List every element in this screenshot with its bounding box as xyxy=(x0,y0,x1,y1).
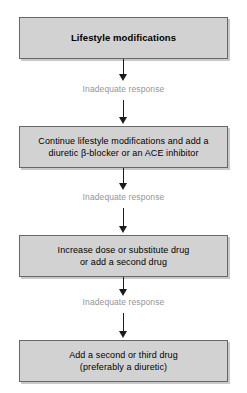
flow-step-line: diuretic β-blocker or an ACE inhibitor xyxy=(24,147,223,160)
arrow-head xyxy=(119,226,127,233)
flow-step-add-second-or-third-drug: Add a second or third drug (preferably a… xyxy=(19,340,228,382)
arrow-head xyxy=(119,289,127,296)
flow-step-add-second-or-third-drug-text: Add a second or third drug (preferably a… xyxy=(20,349,227,374)
arrow-head xyxy=(119,117,127,124)
arrow-head xyxy=(119,331,127,338)
arrow-down-icon xyxy=(119,168,128,192)
arrow-shaft xyxy=(123,208,124,228)
flow-step-increase-dose-or-substitute-text: Increase dose or substitute drug or add … xyxy=(20,244,227,269)
arrow-down-icon xyxy=(119,313,128,340)
arrow-head xyxy=(119,74,127,81)
flow-step-line: Lifestyle modifications xyxy=(24,32,223,45)
connector-label-inadequate-response-2: Inadequate response xyxy=(0,192,247,202)
connector-label-inadequate-response-1: Inadequate response xyxy=(0,84,247,94)
arrow-shaft xyxy=(123,313,124,333)
arrow-down-icon xyxy=(119,277,128,298)
flow-step-line: or add a second drug xyxy=(24,256,223,269)
flow-step-line: (preferably a diuretic) xyxy=(24,361,223,374)
connector-label-inadequate-response-3: Inadequate response xyxy=(0,297,247,307)
arrow-head xyxy=(119,183,127,190)
arrow-down-icon xyxy=(119,208,128,235)
flow-step-lifestyle-modifications-text: Lifestyle modifications xyxy=(20,32,227,45)
flowchart-diagram: Lifestyle modifications Inadequate respo… xyxy=(0,0,247,393)
flow-step-line: Add a second or third drug xyxy=(24,349,223,362)
flow-step-line: Increase dose or substitute drug xyxy=(24,244,223,257)
flow-step-continue-lifestyle-add-drug-text: Continue lifestyle modifications and add… xyxy=(20,135,227,160)
flow-step-increase-dose-or-substitute: Increase dose or substitute drug or add … xyxy=(19,235,228,277)
flow-step-continue-lifestyle-add-drug: Continue lifestyle modifications and add… xyxy=(19,126,228,168)
flow-step-lifestyle-modifications: Lifestyle modifications xyxy=(19,17,228,59)
flow-step-line: Continue lifestyle modifications and add… xyxy=(24,135,223,148)
arrow-down-icon xyxy=(119,59,128,83)
arrow-down-icon xyxy=(119,100,128,126)
